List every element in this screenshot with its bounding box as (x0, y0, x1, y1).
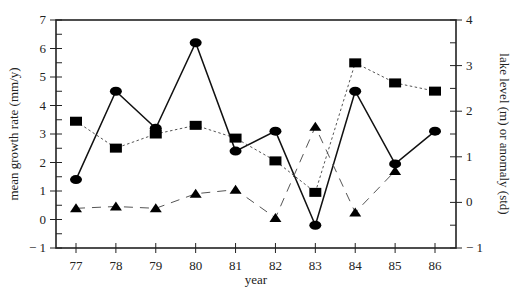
right-tick-label: 4 (466, 12, 473, 27)
square-marker (70, 117, 82, 126)
right-axis-ticks: − 101234 (450, 12, 483, 255)
x-axis-label: year (245, 272, 268, 287)
data-series (70, 38, 441, 229)
right-tick-label: 1 (466, 149, 473, 164)
square-marker (429, 87, 441, 96)
left-tick-label: 4 (40, 98, 47, 113)
left-tick-label: − 1 (29, 240, 46, 255)
square-marker (110, 144, 122, 153)
circle-marker (70, 175, 82, 184)
x-tick-label: 82 (269, 258, 282, 273)
left-tick-label: 5 (40, 69, 47, 84)
left-tick-label: 2 (40, 155, 47, 170)
triangle-marker (230, 185, 242, 194)
right-tick-label: 2 (466, 103, 473, 118)
left-tick-label: 1 (40, 183, 47, 198)
circle-marker (190, 38, 202, 47)
series-line (76, 43, 435, 225)
series-line (76, 63, 435, 193)
right-tick-label: 0 (466, 194, 473, 209)
circle-marker (309, 221, 321, 230)
circle-marker (110, 87, 122, 96)
circle-marker (269, 127, 281, 136)
triangle-marker (389, 166, 401, 175)
triangle-marker (309, 122, 321, 131)
chart-container: − 101234567 − 101234 7778798081828384858… (0, 0, 516, 299)
right-axis-label: lake level (m) or anomaly (std) (497, 53, 512, 214)
square-marker (309, 188, 321, 197)
square-marker (190, 121, 202, 130)
circle-marker (230, 147, 242, 156)
square-marker (389, 78, 401, 87)
triangle-marker (349, 207, 361, 216)
triangle-marker (190, 189, 202, 198)
left-tick-label: 6 (40, 41, 47, 56)
circle-marker (429, 127, 441, 136)
left-tick-label: 3 (40, 126, 47, 141)
right-tick-label: − 1 (466, 240, 483, 255)
x-tick-label: 80 (189, 258, 202, 273)
circle-marker (349, 87, 361, 96)
plot-border (56, 20, 456, 248)
x-tick-label: 78 (109, 258, 122, 273)
x-tick-label: 81 (229, 258, 242, 273)
series-square (70, 58, 441, 197)
triangle-marker (110, 202, 122, 211)
x-tick-label: 85 (389, 258, 402, 273)
square-marker (230, 134, 242, 143)
left-axis-ticks: − 101234567 (29, 12, 62, 255)
x-tick-label: 86 (429, 258, 443, 273)
triangle-marker (150, 203, 162, 212)
line-chart: − 101234567 − 101234 7778798081828384858… (0, 0, 516, 299)
square-marker (150, 130, 162, 139)
x-tick-label: 77 (70, 258, 84, 273)
left-axis-label: mean growth rate (mm/y) (6, 67, 21, 200)
right-tick-label: 3 (466, 58, 473, 73)
x-tick-label: 83 (309, 258, 322, 273)
plot-frame (56, 20, 456, 248)
x-tick-label: 79 (149, 258, 162, 273)
square-marker (349, 58, 361, 67)
square-marker (269, 156, 281, 165)
left-tick-label: 7 (40, 12, 47, 27)
x-tick-label: 84 (349, 258, 363, 273)
triangle-marker (269, 213, 281, 222)
series-circle (70, 38, 441, 229)
left-tick-label: 0 (40, 212, 47, 227)
